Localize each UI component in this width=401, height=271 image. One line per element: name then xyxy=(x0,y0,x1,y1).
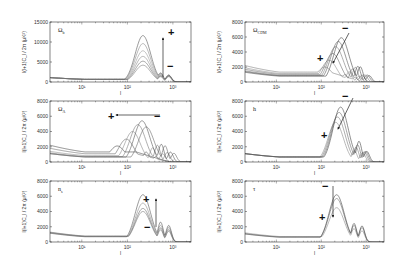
y-tick-label: 6000 xyxy=(37,113,48,119)
panel-title: Ωb xyxy=(58,27,64,35)
y-tick-label: 8000 xyxy=(232,178,243,184)
series-curve-3 xyxy=(245,112,384,162)
x-tick-label: 10¹ xyxy=(78,84,86,90)
plot-frame xyxy=(245,181,384,242)
series-curve-3 xyxy=(50,132,191,162)
y-tick-label: 0 xyxy=(240,239,243,245)
y-tick-label: 0 xyxy=(45,159,48,165)
panel-title: h xyxy=(253,106,256,112)
minus-sign: − xyxy=(322,180,328,192)
y-axis-label: l(l+1)C_l / 2π (μK²) xyxy=(216,110,222,152)
y-axis-label: l(l+1)C_l / 2π (μK²) xyxy=(216,190,222,232)
panel-title: ns xyxy=(58,186,63,194)
panel-title: τ xyxy=(253,186,256,192)
x-tick-label: 10¹ xyxy=(273,244,281,250)
minus-sign: − xyxy=(167,60,173,72)
plus-sign: + xyxy=(143,193,149,205)
y-tick-label: 2000 xyxy=(232,144,243,150)
x-tick-label: 10² xyxy=(124,244,132,250)
x-axis-label: l xyxy=(314,170,315,176)
panel-spectral-index: 0200040006000800010¹10²10³ll(l+1)C_l / 2… xyxy=(21,178,191,256)
y-tick-label: 6000 xyxy=(232,34,243,40)
y-tick-label: 2000 xyxy=(37,144,48,150)
series-curve-4 xyxy=(245,47,384,82)
y-tick-label: 8000 xyxy=(37,178,48,184)
series-curve-3 xyxy=(245,195,384,242)
panel-omega-lambda: 0200040006000800010¹10²10³ll(l+1)C_l / 2… xyxy=(21,98,191,176)
minus-sign: − xyxy=(342,90,348,102)
plus-sign: + xyxy=(108,110,114,122)
x-axis-label: l xyxy=(120,250,121,256)
y-tick-label: 8000 xyxy=(232,19,243,25)
y-tick-label: 6000 xyxy=(37,193,48,199)
x-axis-label: l xyxy=(314,90,315,96)
x-tick-label: 10³ xyxy=(363,244,371,250)
y-tick-label: 4000 xyxy=(232,208,243,214)
x-tick-label: 10² xyxy=(124,84,132,90)
y-axis-label: l(l+1)C_l / 2π (μK²) xyxy=(21,31,27,73)
x-axis-label: l xyxy=(314,250,315,256)
series-curve-6 xyxy=(50,36,191,82)
panel-omega-cdm: 0200040006000800010¹10²10³ll(l+1)C_l / 2… xyxy=(216,19,384,96)
plus-sign: + xyxy=(317,52,323,64)
y-tick-label: 0 xyxy=(45,79,48,85)
plus-sign: + xyxy=(319,211,325,223)
x-tick-label: 10² xyxy=(318,164,326,170)
panel-optical-depth-tau: 0200040006000800010¹10²10³ll(l+1)C_l / 2… xyxy=(216,178,384,256)
y-axis-label: l(l+1)C_l / 2π (μK²) xyxy=(21,190,27,232)
x-tick-label: 10¹ xyxy=(273,164,281,170)
y-tick-label: 4000 xyxy=(232,49,243,55)
y-axis-label: l(l+1)C_l / 2π (μK²) xyxy=(21,110,27,152)
x-tick-label: 10³ xyxy=(169,244,177,250)
y-tick-label: 8000 xyxy=(37,98,48,104)
plus-sign: + xyxy=(321,129,327,141)
minus-sign: − xyxy=(144,221,150,233)
panel-title-subscript: Λ xyxy=(62,109,65,114)
y-tick-label: 5000 xyxy=(37,59,48,65)
x-axis-label: l xyxy=(120,90,121,96)
y-axis-label: l(l+1)C_l / 2π (μK²) xyxy=(216,31,222,73)
series-curve-2 xyxy=(245,60,384,82)
y-tick-label: 4000 xyxy=(37,208,48,214)
x-axis-label: l xyxy=(120,170,121,176)
y-tick-label: 6000 xyxy=(232,193,243,199)
panel-title: ΩΛ xyxy=(58,106,65,114)
x-tick-label: 10³ xyxy=(169,164,177,170)
panel-title: ΩCDM xyxy=(253,27,267,35)
panel-hubble-h: 0200040006000800010¹10²10³ll(l+1)C_l / 2… xyxy=(216,90,384,176)
y-tick-label: 2000 xyxy=(37,224,48,230)
minus-sign: − xyxy=(154,110,160,122)
x-tick-label: 10¹ xyxy=(78,164,86,170)
series-curve-4 xyxy=(245,107,384,162)
series-curve-4 xyxy=(50,125,191,162)
y-tick-label: 0 xyxy=(240,79,243,85)
panel-title-subscript: b xyxy=(62,30,64,35)
y-tick-label: 0 xyxy=(45,239,48,245)
panel-title-subscript: s xyxy=(61,189,63,194)
y-tick-label: 10000 xyxy=(34,39,48,45)
y-tick-label: 15000 xyxy=(34,19,48,25)
x-tick-label: 10³ xyxy=(363,164,371,170)
y-tick-label: 2000 xyxy=(232,224,243,230)
x-tick-label: 10² xyxy=(124,164,132,170)
y-tick-label: 4000 xyxy=(37,128,48,134)
x-tick-label: 10¹ xyxy=(273,84,281,90)
y-tick-label: 6000 xyxy=(232,113,243,119)
x-tick-label: 10³ xyxy=(363,84,371,90)
x-tick-label: 10³ xyxy=(169,84,177,90)
minus-sign: − xyxy=(342,22,348,34)
y-tick-label: 2000 xyxy=(232,64,243,70)
x-tick-label: 10² xyxy=(318,244,326,250)
x-tick-label: 10¹ xyxy=(78,244,86,250)
y-tick-label: 8000 xyxy=(232,98,243,104)
plus-sign: + xyxy=(168,26,174,38)
y-tick-label: 0 xyxy=(240,159,243,165)
y-tick-label: 4000 xyxy=(232,128,243,134)
figure: 05000100001500010¹10²10³ll(l+1)C_l / 2π … xyxy=(0,0,401,271)
series-curve-1 xyxy=(50,145,191,162)
series-curve-3 xyxy=(245,54,384,82)
x-tick-label: 10² xyxy=(318,84,326,90)
panel-omega-b: 05000100001500010¹10²10³ll(l+1)C_l / 2π … xyxy=(21,19,191,96)
panel-title-subscript: CDM xyxy=(257,30,267,35)
parameter-arrow xyxy=(338,98,353,129)
